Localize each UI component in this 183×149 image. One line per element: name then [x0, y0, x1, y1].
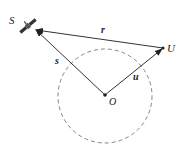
- vector-s: [36, 30, 105, 95]
- vector-r: [36, 30, 163, 48]
- label-origin: O: [109, 96, 116, 107]
- label-vector-s: s: [54, 55, 59, 66]
- label-vector-u: u: [133, 71, 139, 82]
- satellite-icon: [16, 15, 37, 34]
- label-vector-r: r: [101, 24, 105, 35]
- label-user: U: [167, 42, 176, 54]
- satellite-geometry-diagram: S U O r s u: [0, 0, 183, 149]
- origin-point: [103, 93, 107, 97]
- user-point: [161, 46, 164, 49]
- label-satellite: S: [9, 14, 15, 26]
